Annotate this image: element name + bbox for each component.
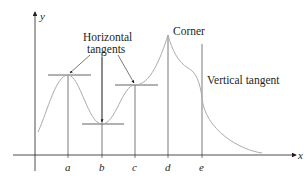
vertical-tangent-label: Vertical tangent [207, 74, 280, 87]
tick-label-c: c [132, 161, 137, 173]
tick-label-b: b [99, 161, 105, 173]
corner-label: Corner [173, 25, 205, 37]
tick-label-e: e [199, 161, 204, 173]
function-curve [38, 35, 262, 153]
derivative-features-diagram: y x a b c d e Horizontal tangents Corner… [0, 0, 307, 181]
y-axis-label: y [39, 10, 45, 22]
tick-label-a: a [65, 161, 71, 173]
x-axis-label: x [297, 149, 303, 161]
tick-label-d: d [165, 161, 171, 173]
horizontal-tangents-label-line2: tangents [87, 43, 126, 56]
horizontal-tangents-label-line1: Horizontal [83, 31, 132, 43]
horizontal-tangent-lines [48, 75, 158, 124]
